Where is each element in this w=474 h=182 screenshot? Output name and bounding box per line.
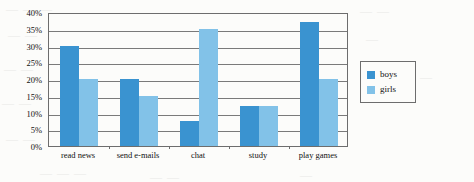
chart-page: — — — — — — — — — — — — — — — — — — — — … <box>0 0 474 182</box>
bleed-through-text: — — <box>150 170 180 182</box>
x-axis-tick <box>109 146 110 149</box>
x-axis-category-label: play games <box>288 150 348 160</box>
x-axis-category-label: read news <box>48 150 108 160</box>
legend-swatch-boys <box>367 71 375 79</box>
bar-group <box>60 14 98 146</box>
legend-label: girls <box>380 85 396 94</box>
bar-group <box>300 14 338 146</box>
legend-swatch-girls <box>367 86 375 94</box>
x-axis-tick <box>169 146 170 149</box>
x-axis-tick <box>229 146 230 149</box>
x-axis-category-label: study <box>228 150 288 160</box>
y-axis-labels: 40%35%30%25%20%15%10%5%0% <box>8 13 44 147</box>
legend-item[interactable]: girls <box>367 82 415 97</box>
bleed-through-text: — — <box>360 4 390 19</box>
x-axis-labels: read newssend e-mailschatstudyplay games <box>48 150 348 164</box>
y-axis-tick-label: 10% <box>8 110 42 119</box>
bar-group <box>240 14 278 146</box>
bar-girls[interactable] <box>259 106 278 146</box>
y-axis-tick-label: 30% <box>8 43 42 52</box>
bar-chart-plot-area <box>48 13 348 147</box>
bleed-through-text: — <box>300 168 313 182</box>
bar-girls[interactable] <box>139 96 158 146</box>
bar-boys[interactable] <box>180 121 199 146</box>
bar-boys[interactable] <box>60 46 79 147</box>
y-axis-tick-label: 15% <box>8 93 42 102</box>
bar-boys[interactable] <box>240 106 259 146</box>
bar-boys[interactable] <box>120 79 139 146</box>
y-axis-tick-label: 35% <box>8 26 42 35</box>
x-axis-category-label: chat <box>168 150 228 160</box>
legend-label: boys <box>380 70 397 79</box>
bleed-through-text: — <box>366 32 379 47</box>
bleed-through-text: — <box>420 70 433 85</box>
bar-girls[interactable] <box>319 79 338 146</box>
bar-girls[interactable] <box>199 29 218 146</box>
y-axis-tick-label: 40% <box>8 9 42 18</box>
y-axis-tick-label: 5% <box>8 126 42 135</box>
legend-item[interactable]: boys <box>367 67 415 82</box>
y-axis-tick-label: 20% <box>8 76 42 85</box>
chart-legend: boysgirls <box>360 61 416 103</box>
bar-group <box>180 14 218 146</box>
y-axis-tick-label: 25% <box>8 59 42 68</box>
bleed-through-text: — — — <box>40 166 87 181</box>
x-axis-category-label: send e-mails <box>108 150 168 160</box>
bar-boys[interactable] <box>300 22 319 146</box>
bar-group <box>120 14 158 146</box>
x-axis-tick <box>289 146 290 149</box>
bar-girls[interactable] <box>79 79 98 146</box>
y-axis-tick-label: 0% <box>8 143 42 152</box>
